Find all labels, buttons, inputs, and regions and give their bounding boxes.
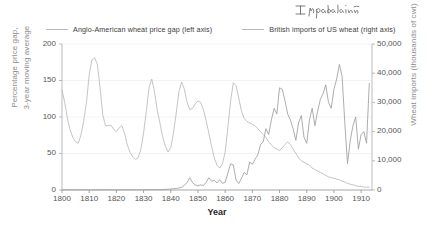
- gridlines: [62, 44, 372, 154]
- chart-figure: Anglo-American wheat price gap (left axi…: [0, 0, 433, 234]
- series-line-price-gap: [62, 58, 369, 187]
- tick-marks: [59, 44, 375, 193]
- plot-area: [0, 0, 433, 234]
- series-line-imports: [62, 64, 369, 189]
